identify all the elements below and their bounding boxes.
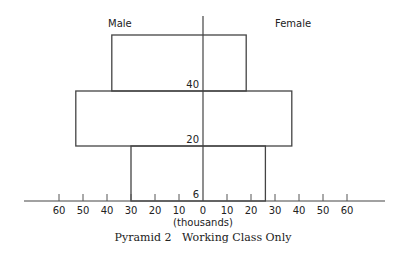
female-label: Female: [275, 18, 311, 29]
x-axis-units-label: (thousands): [173, 217, 233, 228]
age-band-box-20-40: [76, 91, 292, 146]
population-pyramid-chart: Male Female 40 20 6 60504030201001020304…: [0, 0, 405, 254]
x-tick-label: 60: [341, 205, 354, 216]
male-label: Male: [108, 18, 132, 29]
x-tick-label: 20: [149, 205, 162, 216]
x-tick-label: 50: [317, 205, 330, 216]
age-label-20: 20: [186, 134, 199, 145]
x-tick-label: 10: [221, 205, 234, 216]
x-tick-label: 50: [77, 205, 90, 216]
age-band-box-40+: [112, 35, 246, 91]
x-tick-label: 10: [173, 205, 186, 216]
x-tick-label: 60: [53, 205, 66, 216]
x-tick-label: 30: [269, 205, 282, 216]
x-tick-label: 40: [293, 205, 306, 216]
age-label-6: 6: [193, 189, 199, 200]
x-tick-label: 30: [125, 205, 138, 216]
age-label-40: 40: [186, 79, 199, 90]
pyramid-boxes: [76, 35, 292, 201]
x-tick-label: 20: [245, 205, 258, 216]
x-tick-label: 40: [101, 205, 114, 216]
x-tick-label: 0: [200, 205, 206, 216]
chart-caption: Pyramid 2 Working Class Only: [115, 231, 293, 244]
